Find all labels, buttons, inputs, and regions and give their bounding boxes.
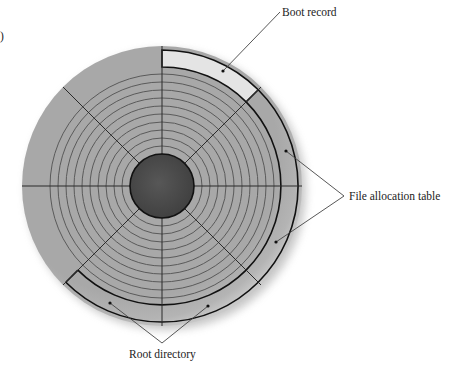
root-directory-label: Root directory bbox=[129, 348, 196, 361]
disk-hub bbox=[130, 154, 194, 218]
file-allocation-table-label: File allocation table bbox=[349, 190, 440, 202]
disk-diagram: ) bbox=[0, 0, 458, 376]
figure-mark: ) bbox=[0, 30, 4, 43]
boot-record-label: Boot record bbox=[282, 6, 337, 18]
